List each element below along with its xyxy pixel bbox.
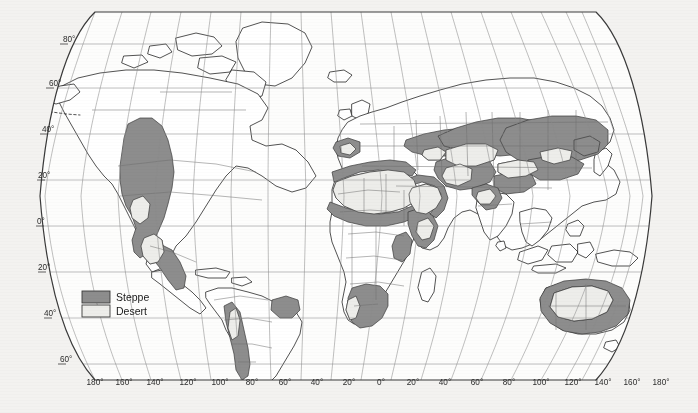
lon-label-100e: 100° <box>533 378 550 387</box>
lon-label-120w: 120° <box>180 378 197 387</box>
lat-tick-60n: 60° <box>46 79 61 88</box>
legend-label-desert: Desert <box>116 305 147 317</box>
lon-label-100w: 100° <box>212 378 229 387</box>
lon-label-80w: 80° <box>246 378 258 387</box>
lat-label-0: 0° <box>37 217 45 226</box>
lat-tick-40s: 40° <box>44 309 56 318</box>
lon-label-140e: 140° <box>595 378 612 387</box>
lat-label-60n: 60° <box>49 79 61 88</box>
map-body <box>30 5 676 400</box>
world-climate-map-figure: 80° 60° 40° 20° 0° 20° <box>0 0 698 413</box>
lon-label-40e: 40° <box>439 378 451 387</box>
legend-swatch-desert <box>82 305 110 317</box>
lat-tick-60s: 60° <box>58 355 72 364</box>
world-map-svg: 80° 60° 40° 20° 0° 20° <box>0 0 698 413</box>
lat-tick-20n: 20° <box>37 171 50 180</box>
lon-label-0: 0° <box>377 378 385 387</box>
lat-tick-20s: 20° <box>38 263 50 272</box>
lon-label-60e: 60° <box>471 378 483 387</box>
lat-label-40n: 40° <box>42 125 54 134</box>
lon-label-60w: 60° <box>279 378 291 387</box>
lat-tick-40n: 40° <box>40 125 54 134</box>
lon-label-140w: 140° <box>147 378 164 387</box>
lon-label-40w: 40° <box>311 378 323 387</box>
lon-label-160w: 160° <box>116 378 133 387</box>
lon-label-180e: 180° <box>653 378 670 387</box>
legend-item-steppe: Steppe <box>82 291 149 303</box>
legend-label-steppe: Steppe <box>116 291 149 303</box>
lat-tick-80n: 80° <box>60 35 75 44</box>
lat-label-40s: 40° <box>44 309 56 318</box>
legend-swatch-steppe <box>82 291 110 303</box>
lat-label-20s: 20° <box>38 263 50 272</box>
lon-label-20e: 20° <box>407 378 419 387</box>
lat-label-20n: 20° <box>38 171 50 180</box>
lon-label-80e: 80° <box>503 378 515 387</box>
lon-label-120e: 120° <box>565 378 582 387</box>
lat-label-60s: 60° <box>60 355 72 364</box>
lat-label-80n: 80° <box>63 35 75 44</box>
lon-label-160e: 160° <box>624 378 641 387</box>
lon-label-20w: 20° <box>343 378 355 387</box>
lon-label-180w: 180° <box>87 378 104 387</box>
lat-tick-0: 0° <box>36 217 45 226</box>
